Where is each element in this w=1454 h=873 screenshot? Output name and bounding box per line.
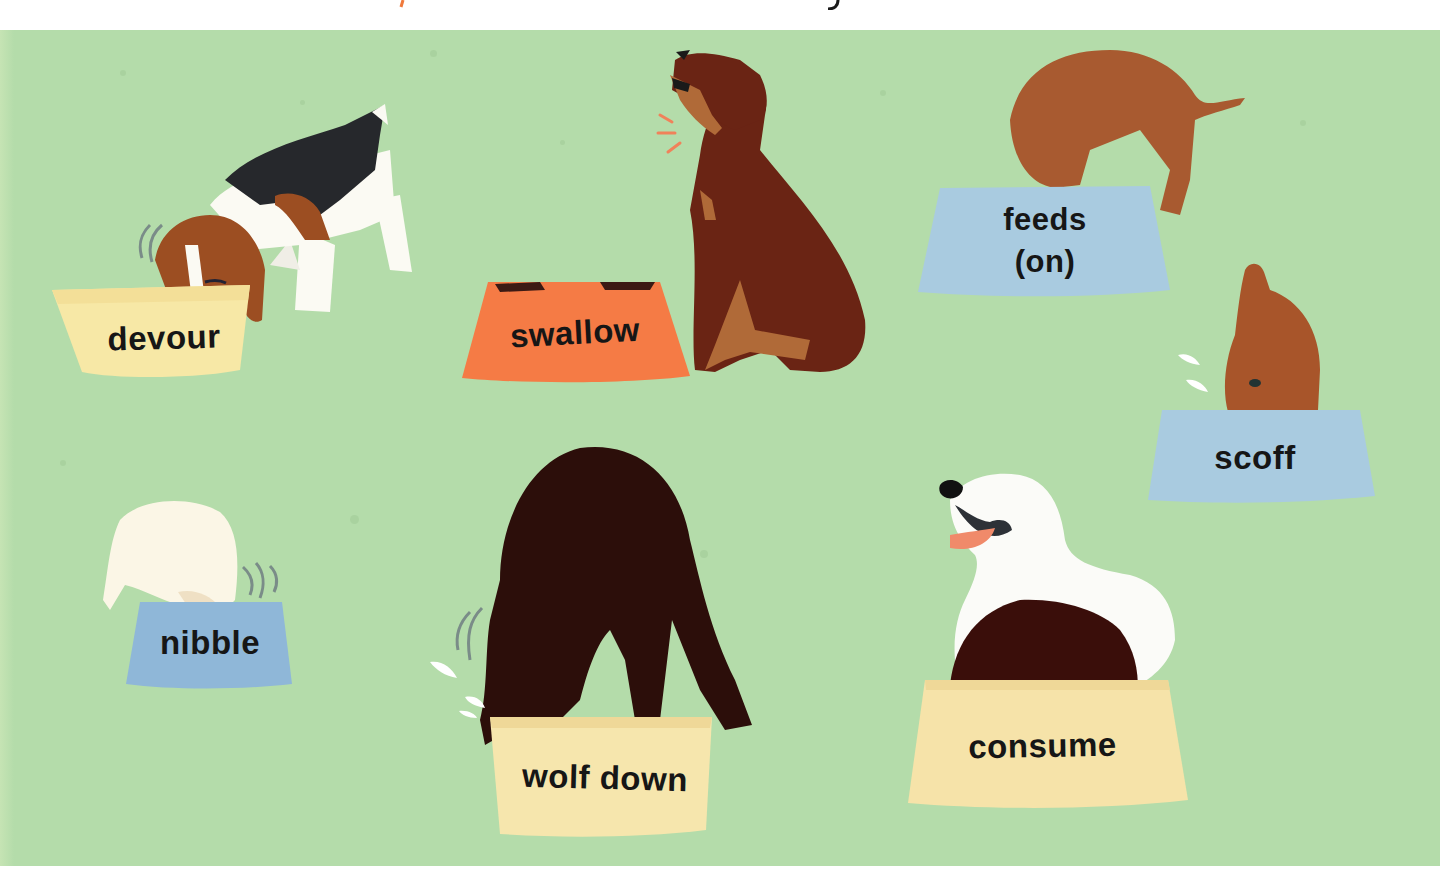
word-label-nibble: nibble — [145, 625, 275, 661]
word-label-devour: devour — [94, 318, 235, 358]
word-label-consume: consume — [950, 726, 1136, 765]
clipped-header-fragment — [395, 0, 415, 10]
clipped-header-fragment — [820, 0, 850, 10]
labrador-dog-icon — [430, 447, 752, 745]
fluffy-dog-icon — [103, 501, 277, 610]
rottweiler-dog-icon — [658, 50, 865, 372]
poodle-dog-icon — [1178, 264, 1320, 412]
word-label-on: (on) — [985, 244, 1105, 280]
illustration-panel: devour swallow feeds (on) scoff nibble w… — [0, 30, 1440, 866]
word-label-wolf-down: wolf down — [500, 757, 711, 798]
retriever-dog-icon — [939, 474, 1175, 690]
word-label-feeds: feeds — [985, 202, 1105, 238]
word-label-scoff: scoff — [1195, 440, 1315, 476]
